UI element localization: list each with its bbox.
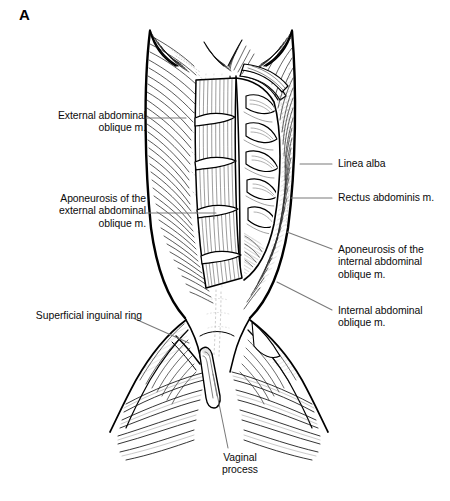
- label-vaginal-process: Vaginal process: [196, 452, 284, 477]
- rectus-abdominis-muscle: [195, 78, 242, 288]
- vaginal-process-structure: [200, 347, 221, 408]
- inguinal-region: [110, 290, 328, 460]
- left-inguinal-flank: [110, 320, 206, 460]
- panel-letter: A: [19, 6, 30, 23]
- leader-vaginal-process: [213, 374, 228, 448]
- label-internal-abdominal-oblique: Internal abdominal oblique m.: [338, 305, 448, 330]
- right-inguinal-flank: [232, 320, 328, 460]
- label-linea-alba: Linea alba: [338, 158, 446, 170]
- label-superficial-inguinal-ring: Superficial inguinal ring: [2, 310, 142, 322]
- label-aponeurosis-internal-abdominal-oblique: Aponeurosis of the internal abdominal ob…: [338, 244, 448, 281]
- leader-internal-abdominal-oblique: [277, 282, 332, 310]
- label-external-abdominal-oblique: External abdominal oblique m.: [12, 110, 146, 135]
- label-aponeurosis-external-abdominal-oblique: Aponeurosis of the external abdominal ob…: [12, 193, 146, 230]
- anatomy-figure: A External abdominal oblique m. Aponeuro…: [0, 0, 450, 501]
- leader-aponeurosis-internal-abdominal-oblique: [287, 232, 332, 249]
- label-rectus-abdominis: Rectus abdominis m.: [338, 192, 448, 204]
